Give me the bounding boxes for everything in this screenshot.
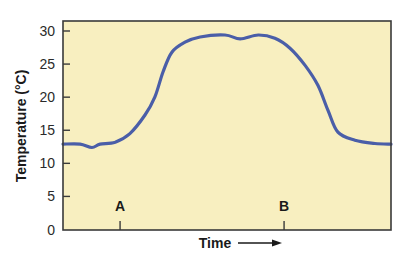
x-marker-label-a: A — [115, 198, 125, 214]
arrow-right-icon — [238, 240, 282, 247]
x-axis-title: Time — [199, 235, 232, 251]
y-tick-label: 15 — [39, 122, 55, 138]
x-marker-label-b: B — [279, 198, 289, 214]
y-tick-label: 25 — [39, 56, 55, 72]
plot-area — [63, 21, 391, 230]
y-tick-label: 30 — [39, 23, 55, 39]
y-axis-title: Temperature (°C) — [13, 70, 29, 183]
y-tick-label: 5 — [47, 188, 55, 204]
y-tick-label: 0 — [47, 222, 55, 238]
y-tick-label: 10 — [39, 155, 55, 171]
temperature-chart: 051015202530 AB Temperature (°C) Time — [0, 0, 401, 264]
y-tick-label: 20 — [39, 89, 55, 105]
